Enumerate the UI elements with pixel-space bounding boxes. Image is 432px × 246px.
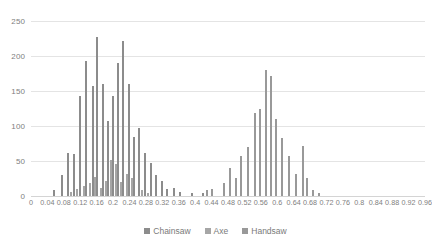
legend-item-chainsaw[interactable]: Chainsaw (144, 226, 190, 236)
bar-axe (115, 164, 117, 196)
bar-chainsaw (161, 181, 163, 196)
bar-chainsaw (67, 153, 69, 196)
bar-chainsaw (191, 193, 193, 196)
bar-handsaw (265, 70, 267, 196)
x-tick-label: 0.88 (385, 198, 399, 207)
bar-axe (70, 192, 72, 196)
bar-axe (89, 183, 91, 196)
bar-handsaw (235, 178, 237, 196)
bar-chainsaw (96, 37, 98, 196)
bar-chainsaw (53, 190, 55, 196)
bar-axe (94, 177, 96, 196)
bar-axe (131, 178, 133, 196)
bar-handsaw (223, 183, 225, 196)
x-tick-label: 0.4 (190, 198, 200, 207)
y-axis: 050100150200250 (0, 0, 29, 216)
bar-chainsaw (128, 84, 130, 196)
bar-handsaw (295, 174, 297, 196)
chart-legend: ChainsawAxeHandsaw (0, 226, 431, 236)
y-tick-label: 200 (11, 52, 25, 61)
bar-handsaw (229, 168, 231, 196)
bar-handsaw (254, 113, 256, 196)
legend-swatch-icon (144, 228, 150, 234)
bar-axe (126, 174, 128, 196)
legend-label: Axe (214, 226, 229, 236)
bar-chainsaw (122, 41, 124, 196)
bar-axe (141, 190, 143, 196)
y-tick-label: 100 (11, 122, 25, 131)
x-tick-label: 0.28 (139, 198, 153, 207)
x-tick-label: 0.44 (204, 198, 218, 207)
gridline (31, 196, 425, 197)
bar-handsaw (306, 178, 308, 196)
x-tick-label: 0.36 (172, 198, 186, 207)
bar-chainsaw (144, 153, 146, 196)
legend-swatch-icon (242, 228, 248, 234)
x-tick-label: 0.48 (221, 198, 235, 207)
x-tick-label: 0.92 (401, 198, 415, 207)
legend-label: Chainsaw (153, 226, 190, 236)
x-tick-label: 0.24 (122, 198, 136, 207)
bar-handsaw (302, 146, 304, 196)
bars-layer (31, 21, 425, 196)
x-tick-label: 0.84 (369, 198, 383, 207)
x-tick-label: 0.2 (108, 198, 118, 207)
legend-swatch-icon (205, 228, 211, 234)
bar-handsaw (211, 189, 213, 196)
bar-chainsaw (202, 193, 204, 197)
y-tick-label: 250 (11, 17, 25, 26)
bar-chainsaw (102, 84, 104, 196)
bar-axe (105, 181, 107, 196)
bar-handsaw (259, 109, 261, 197)
x-tick-label: 0.12 (73, 198, 87, 207)
bar-chainsaw (85, 61, 87, 196)
legend-label: Handsaw (251, 226, 286, 236)
bar-handsaw (247, 147, 249, 196)
bar-handsaw (206, 190, 208, 196)
bar-handsaw (240, 156, 242, 196)
bar-chainsaw (79, 96, 81, 196)
x-tick-label: 0.72 (319, 198, 333, 207)
x-axis: 00.040.080.120.160.20.240.280.320.360.40… (0, 198, 431, 212)
bar-chainsaw (155, 175, 157, 196)
bar-chainsaw (166, 189, 168, 196)
legend-item-axe[interactable]: Axe (205, 226, 229, 236)
x-tick-label: 0.68 (303, 198, 317, 207)
y-tick-label: 150 (11, 87, 25, 96)
bar-axe (83, 186, 85, 196)
bar-axe (147, 193, 149, 197)
bar-chainsaw (73, 154, 75, 196)
bar-axe (110, 160, 112, 196)
x-tick-label: 0.16 (90, 198, 104, 207)
legend-item-handsaw[interactable]: Handsaw (242, 226, 286, 236)
bar-chainsaw (173, 188, 175, 196)
bar-axe (100, 188, 102, 196)
bar-handsaw (312, 190, 314, 196)
bar-chainsaw (138, 128, 140, 196)
bar-axe (76, 189, 78, 196)
x-tick-label: 0.08 (57, 198, 71, 207)
x-tick-label: 0 (29, 198, 33, 207)
x-tick-label: 0.96 (418, 198, 432, 207)
bar-handsaw (281, 138, 283, 196)
bar-handsaw (275, 119, 277, 196)
bar-chainsaw (107, 121, 109, 196)
x-tick-label: 0.52 (237, 198, 251, 207)
bar-handsaw (270, 76, 272, 196)
x-tick-label: 0.64 (287, 198, 301, 207)
bar-chainsaw (150, 163, 152, 196)
x-tick-label: 0.76 (336, 198, 350, 207)
y-tick-label: 50 (16, 157, 25, 166)
bar-handsaw (288, 156, 290, 196)
x-tick-label: 0.56 (254, 198, 268, 207)
x-tick-label: 0.04 (40, 198, 54, 207)
plot-area (31, 21, 425, 196)
x-tick-label: 0.6 (272, 198, 282, 207)
x-tick-label: 0.32 (155, 198, 169, 207)
x-tick-label: 0.8 (354, 198, 364, 207)
bar-chainsaw (92, 86, 94, 196)
bar-axe (120, 182, 122, 196)
bar-chainsaw (179, 192, 181, 196)
bar-handsaw (318, 193, 320, 197)
